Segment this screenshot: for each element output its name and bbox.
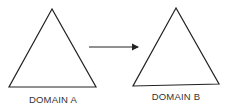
triangle-domain-b — [133, 8, 219, 86]
triangle-domain-a — [9, 9, 96, 87]
domain-a-label: DOMAIN A — [29, 94, 77, 105]
domain-b-label: DOMAIN B — [152, 91, 201, 102]
